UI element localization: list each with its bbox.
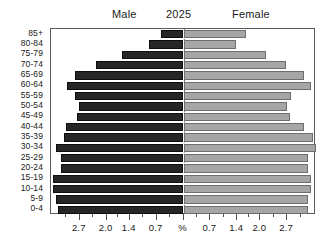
female-bar [184,123,305,131]
table-row [51,102,314,110]
male-bar [67,82,184,90]
table-row [51,154,314,162]
female-bar [184,51,267,59]
female-bar [184,71,305,79]
male-bar [53,175,184,183]
age-group-label: 15-19 [21,173,43,182]
x-axis-major-tick [286,214,287,220]
table-row [51,82,314,90]
female-bar [184,113,290,121]
x-axis-major-tick [183,214,184,220]
male-bar [96,61,184,69]
female-bar [184,102,288,110]
age-group-label: 70-74 [21,60,43,69]
male-bar [75,71,184,79]
table-row [51,164,314,172]
population-pyramid-chart: Male 2025 Female 85+80-8475-7970-7465-69… [0,0,331,246]
table-row [51,71,314,79]
male-bar [53,185,184,193]
female-bar [184,185,312,193]
chart-header: Male 2025 Female [0,8,331,26]
female-bar [184,175,311,183]
x-axis-major-tick [209,214,210,220]
female-bar [184,206,308,214]
table-row [51,113,314,121]
age-group-label: 65-69 [21,70,43,79]
x-axis-tick-label: 0.7 [149,222,163,233]
x-axis-minor-tick [223,214,224,217]
x-axis-tick-label: 2.7 [72,222,86,233]
x-axis-minor-tick [117,214,118,217]
chart-year-title: 2025 [166,8,191,20]
female-bar [184,144,316,152]
x-axis-tick-label: 2.0 [99,222,113,233]
age-group-label: 5-9 [30,194,43,203]
bar-rows-layer [51,29,314,213]
x-axis-tick-label: 2.0 [252,222,266,233]
x-axis-major-tick [259,214,260,220]
female-bar [184,154,308,162]
age-group-label: 85+ [28,29,43,38]
female-bar [184,40,236,48]
x-axis-minor-tick [169,214,170,217]
table-row [51,175,314,183]
table-row [51,51,314,59]
age-group-label: 35-39 [21,132,43,141]
table-row [51,61,314,69]
age-group-label: 45-49 [21,111,43,120]
plot-area [50,28,315,214]
table-row [51,195,314,203]
table-row [51,40,314,48]
x-axis-tick-label: 2.7 [279,222,293,233]
x-axis-minor-tick [65,214,66,217]
x-axis-minor-tick [248,214,249,217]
male-bar [56,195,183,203]
male-bar [61,154,183,162]
age-group-label: 80-84 [21,39,43,48]
male-bar [77,113,184,121]
x-axis-minor-tick [300,214,301,217]
age-group-label: 20-24 [21,163,43,172]
male-bar [56,144,184,152]
table-row [51,144,314,152]
table-row [51,133,314,141]
female-legend-label: Female [232,8,270,20]
female-bar [184,164,308,172]
male-bar [58,206,184,214]
male-bar [161,30,183,38]
age-group-label: 40-44 [21,122,43,131]
male-bar [75,92,184,100]
x-axis-minor-tick [92,214,93,217]
female-bar [184,195,308,203]
x-axis-major-tick [156,214,157,220]
female-bar [184,30,247,38]
age-group-label: 75-79 [21,49,43,58]
table-row [51,30,314,38]
age-group-label: 0-4 [30,204,43,213]
male-bar [64,133,184,141]
table-row [51,206,314,214]
x-axis-major-tick [106,214,107,220]
x-axis-minor-tick [273,214,274,217]
table-row [51,92,314,100]
x-axis-tick-label: 0.7 [202,222,216,233]
male-bar [122,51,183,59]
x-axis-tick-label: % [178,222,187,233]
x-axis-minor-tick [196,214,197,217]
x-axis-minor-tick [142,214,143,217]
x-axis-major-tick [129,214,130,220]
male-bar [61,164,184,172]
table-row [51,123,314,131]
age-group-label: 25-29 [21,153,43,162]
table-row [51,185,314,193]
male-legend-label: Male [112,8,137,20]
male-bar [66,123,184,131]
age-group-label: 30-34 [21,142,43,151]
x-axis-major-tick [236,214,237,220]
age-group-label: 10-14 [21,184,43,193]
male-bar [149,40,183,48]
x-axis-labels: 2.72.01.40.7%0.71.42.02.7 [0,222,331,236]
age-group-label: 55-59 [21,91,43,100]
age-group-axis-labels: 85+80-8475-7970-7465-6960-6455-5950-5445… [0,28,46,214]
age-group-label: 50-54 [21,101,43,110]
